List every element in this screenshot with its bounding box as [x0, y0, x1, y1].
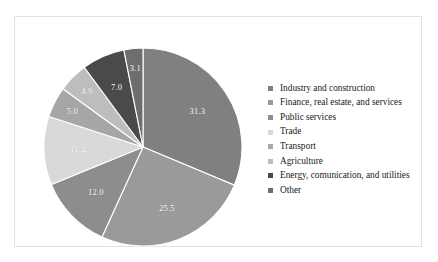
legend-item[interactable]: Public services: [268, 110, 436, 125]
pie-slice-group: [44, 48, 242, 246]
legend-item[interactable]: Industry and construction: [268, 81, 436, 96]
legend-item-label: Public services: [280, 113, 336, 122]
pie-svg: [43, 47, 243, 247]
legend-swatch-icon: [268, 159, 273, 164]
legend-swatch-icon: [268, 130, 273, 135]
legend-item[interactable]: Other: [268, 183, 436, 198]
legend-item[interactable]: Trade: [268, 125, 436, 140]
legend-swatch-icon: [268, 100, 273, 105]
legend-swatch-icon: [268, 173, 273, 178]
legend-item-label: Energy, comunication, and utilities: [280, 171, 410, 180]
legend: Industry and constructionFinance, real e…: [268, 81, 436, 198]
legend-item[interactable]: Agriculture: [268, 154, 436, 169]
legend-item-label: Transport: [280, 142, 316, 151]
pie-chart: 31.325.512.011.25.04.97.03.1: [43, 47, 243, 247]
chart-screenshot: 31.325.512.011.25.04.97.03.1 Industry an…: [0, 0, 438, 262]
legend-swatch-icon: [268, 188, 273, 193]
legend-item[interactable]: Energy, comunication, and utilities: [268, 169, 436, 184]
legend-item[interactable]: Finance, real estate, and services: [268, 96, 436, 111]
legend-swatch-icon: [268, 86, 273, 91]
legend-swatch-icon: [268, 115, 273, 120]
legend-swatch-icon: [268, 144, 273, 149]
legend-item-label: Industry and construction: [280, 84, 375, 93]
legend-item-label: Other: [280, 186, 301, 195]
legend-item-label: Agriculture: [280, 157, 323, 166]
legend-item-label: Finance, real estate, and services: [280, 98, 402, 107]
legend-item-label: Trade: [280, 127, 301, 136]
legend-item[interactable]: Transport: [268, 139, 436, 154]
chart-frame: 31.325.512.011.25.04.97.03.1 Industry an…: [14, 16, 422, 247]
